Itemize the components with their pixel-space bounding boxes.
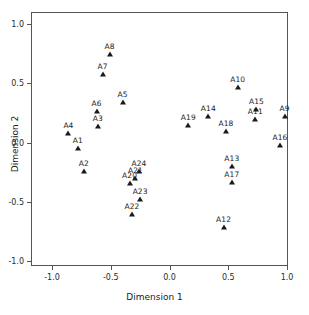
y-axis-label: Dimension 2 <box>10 74 20 214</box>
triangle-marker-icon <box>129 211 135 216</box>
triangle-marker-icon <box>229 179 235 184</box>
triangle-marker-icon <box>81 168 87 173</box>
data-point-label: A17 <box>224 171 239 179</box>
x-tick-mark <box>287 266 288 270</box>
x-tick-label: 1.0 <box>281 273 294 282</box>
x-tick-mark <box>52 266 53 270</box>
y-tick-label: -1.0 <box>8 257 24 266</box>
triangle-marker-icon <box>229 164 235 169</box>
x-tick-mark <box>111 266 112 270</box>
triangle-marker-icon <box>65 131 71 136</box>
x-tick-mark <box>228 266 229 270</box>
y-tick-label: 1.0 <box>11 20 24 29</box>
x-tick-mark <box>170 266 171 270</box>
y-tick-mark <box>27 24 31 25</box>
data-point-label: A16 <box>272 134 287 142</box>
triangle-marker-icon <box>277 142 283 147</box>
y-tick-mark <box>27 261 31 262</box>
data-point-label: A6 <box>92 100 102 108</box>
data-point-label: A13 <box>224 155 239 163</box>
x-axis-label: Dimension 1 <box>0 292 309 302</box>
data-point-label: A5 <box>117 91 127 99</box>
scatter-plot-figure: -1.0-0.50.00.51.0 -1.0-0.50.00.51.0 A1A2… <box>0 0 309 315</box>
triangle-marker-icon <box>120 100 126 105</box>
triangle-marker-icon <box>235 84 241 89</box>
triangle-marker-icon <box>253 107 259 112</box>
data-point-label: A3 <box>93 115 103 123</box>
triangle-marker-icon <box>205 114 211 119</box>
data-point-label: A7 <box>97 63 107 71</box>
y-tick-mark <box>27 143 31 144</box>
triangle-marker-icon <box>223 128 229 133</box>
data-point-label: A12 <box>216 216 231 224</box>
x-tick-label: -1.0 <box>44 273 60 282</box>
x-tick-label: 0.0 <box>163 273 176 282</box>
triangle-marker-icon <box>282 114 288 119</box>
data-point-label: A24 <box>131 160 146 168</box>
data-point-label: A23 <box>133 188 148 196</box>
data-point-label: A14 <box>201 105 216 113</box>
data-point-label: A2 <box>79 160 89 168</box>
data-point-label: A19 <box>181 114 196 122</box>
plot-area-frame <box>31 12 288 266</box>
triangle-marker-icon <box>137 197 143 202</box>
triangle-marker-icon <box>95 123 101 128</box>
data-point-label: A9 <box>280 105 290 113</box>
data-point-label: A10 <box>230 76 245 84</box>
triangle-marker-icon <box>252 116 258 121</box>
data-point-label: A4 <box>63 122 73 130</box>
triangle-marker-icon <box>136 168 142 173</box>
data-point-label: A22 <box>124 203 139 211</box>
data-point-label: A8 <box>105 43 115 51</box>
x-tick-label: 0.5 <box>222 273 235 282</box>
triangle-marker-icon <box>94 108 100 113</box>
triangle-marker-icon <box>100 71 106 76</box>
triangle-marker-icon <box>221 224 227 229</box>
triangle-marker-icon <box>127 180 133 185</box>
data-point-label: A1 <box>73 137 83 145</box>
y-tick-mark <box>27 83 31 84</box>
triangle-marker-icon <box>107 51 113 56</box>
triangle-marker-icon <box>185 122 191 127</box>
data-point-label: A18 <box>218 120 233 128</box>
data-point-label: A15 <box>249 98 264 106</box>
triangle-marker-icon <box>132 176 138 181</box>
y-tick-mark <box>27 202 31 203</box>
triangle-marker-icon <box>75 146 81 151</box>
x-tick-label: -0.5 <box>103 273 119 282</box>
